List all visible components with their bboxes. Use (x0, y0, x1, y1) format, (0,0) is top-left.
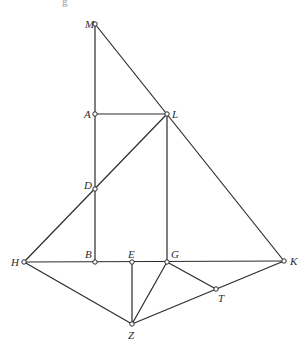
segment-MK (95, 24, 284, 261)
label-H: H (10, 256, 20, 268)
label-G: G (171, 248, 179, 260)
point-H (22, 260, 26, 264)
segment-ZK (132, 261, 284, 324)
label-A: A (83, 108, 91, 120)
points (22, 22, 286, 326)
point-A (93, 112, 97, 116)
segment-HK (24, 261, 284, 262)
label-L: L (171, 108, 178, 120)
point-E (130, 260, 134, 264)
label-Z: Z (128, 329, 135, 341)
point-labels: MALDHBEGKTZ (10, 18, 298, 341)
label-K: K (289, 255, 298, 267)
label-E: E (127, 248, 135, 260)
point-D (93, 187, 97, 191)
point-G (165, 260, 169, 264)
segment-HZ (24, 262, 132, 324)
label-B: B (85, 248, 92, 260)
label-M: M (84, 18, 95, 30)
segment-GZ (132, 262, 167, 324)
label-D: D (83, 179, 92, 191)
geometry-diagram: g MALDHBEGKTZ (0, 0, 308, 357)
label-T: T (218, 292, 225, 304)
segment-GT (167, 262, 216, 289)
point-Z (130, 322, 134, 326)
point-T (214, 287, 218, 291)
cropped-caption-fragment: g (62, 0, 68, 7)
point-L (165, 112, 169, 116)
point-K (282, 259, 286, 263)
line-segments (24, 24, 284, 324)
point-B (93, 260, 97, 264)
